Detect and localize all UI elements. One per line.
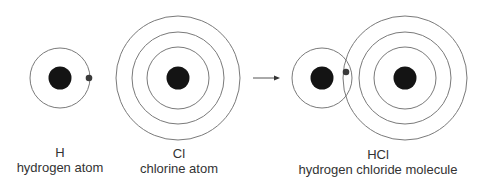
hydrogen-name-label: hydrogen atom: [17, 160, 104, 175]
hcl-symbol-label: HCl: [367, 147, 389, 162]
chlorine-symbol-label: Cl: [173, 146, 185, 161]
chlorine-name-label: chlorine atom: [140, 161, 218, 176]
hydrogen-atom: [30, 48, 92, 108]
hydrogen-electron-dot: [86, 75, 93, 82]
hcl-hydrogen-nucleus: [311, 67, 334, 90]
diagram-canvas: [0, 0, 486, 185]
chlorine-atom: [113, 12, 242, 143]
hydrogen-symbol-label: H: [55, 145, 64, 160]
hcl-chlorine-nucleus: [394, 67, 417, 90]
hcl-name-label: hydrogen chloride molecule: [299, 162, 458, 177]
reaction-arrow: [253, 76, 280, 81]
chlorine-nucleus: [167, 67, 190, 90]
shared-hydrogen-electron-dot: [343, 69, 350, 76]
hydrogen-nucleus: [49, 67, 72, 90]
hcl-molecule: [292, 12, 470, 144]
